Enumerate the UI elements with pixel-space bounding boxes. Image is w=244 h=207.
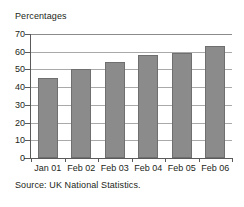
y-tick-label-10: 10: [3, 136, 25, 145]
y-tick-mark-0: [25, 158, 31, 159]
y-axis-title: Percentages: [15, 11, 67, 22]
plot-inner: [31, 34, 232, 158]
y-tick-mark-60: [25, 52, 31, 53]
bar-feb-05[interactable]: [172, 53, 192, 158]
y-tick-label-70: 70: [3, 30, 25, 39]
bar-feb-02[interactable]: [71, 69, 91, 158]
bar-slot: [205, 34, 225, 158]
x-tick-label-feb-04: Feb 04: [132, 163, 166, 174]
bar-slot: [38, 34, 58, 158]
bar-jan-01[interactable]: [38, 78, 58, 158]
x-tick-label-feb-03: Feb 03: [98, 163, 132, 174]
bar-chart-figure: Percentages 010203040506070 Jan 01Feb 02…: [0, 0, 244, 207]
y-tick-mark-30: [25, 105, 31, 106]
bar-feb-06[interactable]: [205, 46, 225, 158]
bar-slot: [105, 34, 125, 158]
y-tick-label-40: 40: [3, 83, 25, 92]
source-note: Source: UK National Statistics.: [15, 180, 141, 191]
bar-slot: [71, 34, 91, 158]
y-tick-mark-70: [25, 34, 31, 35]
x-tick-mark-2: [98, 158, 99, 162]
y-tick-label-50: 50: [3, 65, 25, 74]
y-tick-mark-50: [25, 69, 31, 70]
x-tick-label-feb-05: Feb 05: [165, 163, 199, 174]
x-tick-mark-0: [31, 158, 32, 162]
y-tick-label-20: 20: [3, 118, 25, 127]
x-tick-label-jan-01: Jan 01: [31, 163, 65, 174]
x-tick-mark-4: [165, 158, 166, 162]
x-tick-mark-3: [132, 158, 133, 162]
bar-feb-04[interactable]: [138, 55, 158, 158]
bar-feb-03[interactable]: [105, 62, 125, 158]
y-tick-mark-40: [25, 87, 31, 88]
y-tick-label-30: 30: [3, 100, 25, 109]
bars-group: [31, 34, 232, 158]
y-tick-mark-10: [25, 140, 31, 141]
y-tick-mark-20: [25, 123, 31, 124]
x-tick-mark-5: [199, 158, 200, 162]
x-tick-mark-6: [232, 158, 233, 162]
x-tick-label-feb-02: Feb 02: [65, 163, 99, 174]
bar-slot: [172, 34, 192, 158]
x-axis-labels: Jan 01Feb 02Feb 03Feb 04Feb 05Feb 06: [31, 163, 232, 177]
x-tick-label-feb-06: Feb 06: [199, 163, 233, 174]
bar-slot: [138, 34, 158, 158]
plot-area: 010203040506070: [0, 30, 244, 162]
x-tick-mark-1: [65, 158, 66, 162]
y-tick-label-60: 60: [3, 47, 25, 56]
y-tick-label-0: 0: [3, 154, 25, 163]
x-axis-line: [24, 158, 232, 159]
